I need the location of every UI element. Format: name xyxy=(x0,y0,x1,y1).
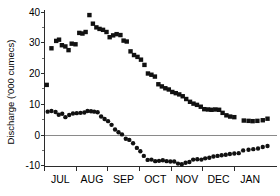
y-tick-labels: 403020100-10 xyxy=(26,7,41,172)
data-point xyxy=(118,33,122,37)
x-tick-label-dec: DEC xyxy=(207,173,230,185)
data-point xyxy=(63,115,67,119)
data-point xyxy=(219,153,223,157)
data-point xyxy=(265,144,269,148)
data-point xyxy=(183,160,187,164)
data-point xyxy=(153,159,157,163)
data-point xyxy=(67,113,71,117)
data-point xyxy=(145,158,149,162)
data-point xyxy=(149,157,153,161)
data-point xyxy=(45,109,49,113)
data-point xyxy=(232,115,236,119)
data-point xyxy=(73,42,77,46)
data-point xyxy=(78,111,82,115)
data-point xyxy=(191,157,195,161)
data-point xyxy=(202,107,206,111)
data-point xyxy=(228,152,232,156)
discharge-scatter-chart: Discharge ('000 cumecs) 403020100-10 JUL… xyxy=(0,0,280,196)
data-point xyxy=(251,147,255,151)
data-point xyxy=(142,154,146,158)
data-point xyxy=(95,110,99,114)
data-point xyxy=(60,112,64,116)
data-point xyxy=(256,146,260,150)
data-point xyxy=(187,160,191,164)
data-point xyxy=(66,48,70,52)
x-tick-label-sep: SEP xyxy=(113,173,134,185)
data-point xyxy=(114,32,118,36)
data-point xyxy=(113,127,117,131)
data-point xyxy=(246,148,250,152)
series-upper-markers xyxy=(45,13,270,123)
data-point xyxy=(131,141,135,145)
data-point xyxy=(215,154,219,158)
data-point xyxy=(195,103,199,107)
data-point xyxy=(199,157,203,161)
data-point xyxy=(228,114,232,118)
data-point xyxy=(265,117,269,121)
x-tick-labels: JULAUGSEPOCTNOVDECJAN xyxy=(51,173,260,185)
x-tick-label-oct: OCT xyxy=(144,173,167,185)
data-point xyxy=(106,119,110,123)
y-tick-label: 40 xyxy=(29,7,41,18)
x-tick-label-nov: NOV xyxy=(175,173,198,185)
data-point xyxy=(49,46,53,50)
x-tick-label-aug: AUG xyxy=(81,173,104,185)
data-point xyxy=(45,83,49,87)
data-point xyxy=(209,108,213,112)
x-tick-label-jan: JAN xyxy=(240,173,260,185)
data-point xyxy=(109,123,113,127)
data-point xyxy=(49,109,53,113)
data-point xyxy=(164,159,168,163)
y-tick-marks xyxy=(41,12,45,166)
data-point xyxy=(180,162,184,166)
data-point xyxy=(232,151,236,155)
data-point xyxy=(172,159,176,163)
data-point xyxy=(127,138,131,142)
data-point xyxy=(195,157,199,161)
data-point xyxy=(75,111,79,115)
data-point xyxy=(70,41,74,45)
data-point xyxy=(242,118,246,122)
data-point xyxy=(125,39,129,43)
data-point xyxy=(203,156,207,160)
data-point xyxy=(261,145,265,149)
data-point xyxy=(246,119,250,123)
chart-figure: Discharge ('000 cumecs) 403020100-10 JUL… xyxy=(0,0,280,196)
data-point xyxy=(120,132,124,136)
data-point xyxy=(213,107,217,111)
y-tick-label: 10 xyxy=(29,99,41,110)
data-point xyxy=(211,154,215,158)
data-point xyxy=(157,159,161,163)
data-point xyxy=(153,74,157,78)
data-point xyxy=(224,152,228,156)
data-point xyxy=(139,57,143,61)
data-point xyxy=(104,30,108,34)
data-point xyxy=(168,159,172,163)
y-axis-title: Discharge ('000 cumecs) xyxy=(5,40,16,145)
data-point xyxy=(142,63,146,67)
data-point xyxy=(250,119,254,123)
x-tick-marks xyxy=(45,167,235,171)
data-point xyxy=(224,113,228,117)
data-point xyxy=(220,111,224,115)
data-point xyxy=(255,119,259,123)
data-point xyxy=(87,13,91,17)
y-tick-label: 30 xyxy=(29,37,41,48)
y-axis-title-text: Discharge ('000 cumecs) xyxy=(5,40,16,145)
data-point xyxy=(71,111,75,115)
data-point xyxy=(261,118,265,122)
data-point xyxy=(207,156,211,160)
data-point xyxy=(184,97,188,101)
data-point xyxy=(241,148,245,152)
y-tick-label: 20 xyxy=(29,68,41,79)
data-point xyxy=(57,37,61,41)
data-point xyxy=(138,149,142,153)
data-point xyxy=(237,151,241,155)
data-point xyxy=(161,158,165,162)
data-point xyxy=(135,146,139,150)
y-tick-label: -10 xyxy=(26,160,41,171)
data-point xyxy=(83,30,87,34)
x-tick-label-jul: JUL xyxy=(51,173,70,185)
data-point xyxy=(176,161,180,165)
y-tick-label: 0 xyxy=(34,130,40,141)
